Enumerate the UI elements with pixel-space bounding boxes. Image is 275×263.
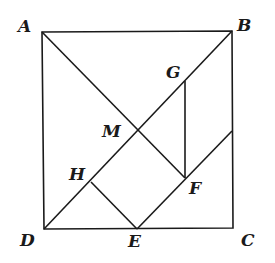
label-d: D: [20, 232, 35, 249]
label-h: H: [69, 166, 85, 183]
label-a: A: [18, 18, 31, 35]
label-g: G: [166, 64, 181, 81]
segment-d-b: [44, 31, 232, 229]
diagram-lines: [0, 0, 275, 263]
label-b: B: [237, 17, 251, 34]
segment-h-e: [91, 182, 137, 229]
label-f: F: [189, 180, 201, 197]
label-m: M: [102, 123, 121, 140]
label-e: E: [128, 233, 141, 250]
geometry-diagram: A B C D E F G H M: [0, 0, 275, 263]
label-c: C: [241, 232, 255, 249]
